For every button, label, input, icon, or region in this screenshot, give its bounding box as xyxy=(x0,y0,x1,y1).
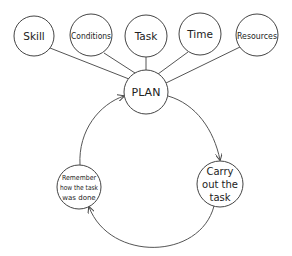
node-skill: Skill xyxy=(14,16,54,56)
node-plan: PLAN xyxy=(124,70,168,114)
node-conditions-label: Conditions xyxy=(71,31,111,41)
node-task-label: Task xyxy=(134,30,159,42)
plan-cycle-diagram: Skill Conditions Task Time Resources PLA… xyxy=(0,0,292,256)
cycle-edges xyxy=(80,96,220,247)
arrow-carry-to-remember xyxy=(89,206,214,247)
arrow-remember-to-plan xyxy=(80,96,124,165)
node-resources-label: Resources xyxy=(237,31,277,41)
node-remember: Remember how the task was done xyxy=(57,165,101,209)
node-remember-line-2: how the task xyxy=(60,184,99,192)
node-time-label: Time xyxy=(186,28,213,40)
node-resources: Resources xyxy=(236,14,278,56)
node-conditions: Conditions xyxy=(70,14,112,56)
node-plan-label: PLAN xyxy=(132,86,161,99)
node-remember-line-3: was done xyxy=(62,194,95,202)
node-time: Time xyxy=(179,13,221,55)
node-carry-line-3: task xyxy=(209,192,230,203)
edge-time-plan xyxy=(158,52,188,74)
node-carry-line-2: out the xyxy=(202,179,238,190)
node-carry-out-task: Carry out the task xyxy=(197,161,243,207)
node-task: Task xyxy=(125,15,167,57)
node-remember-line-1: Remember xyxy=(62,174,96,182)
node-carry-line-1: Carry xyxy=(206,166,233,177)
node-skill-label: Skill xyxy=(23,30,45,42)
edge-conditions-plan xyxy=(104,53,135,73)
arrow-plan-to-carry xyxy=(168,96,220,160)
